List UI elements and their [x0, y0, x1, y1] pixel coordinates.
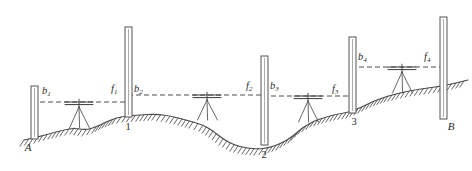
tripod-leg-3 [308, 101, 319, 122]
ground-hatch-tick [136, 115, 140, 121]
ground-hatch-tick [174, 118, 178, 124]
tripod-leg-1 [70, 107, 80, 128]
ground-hatch-tick [157, 115, 161, 121]
ground-hatch-tick [199, 125, 203, 131]
reading-subscript: 2 [249, 85, 253, 93]
tripod-leg-2 [308, 101, 309, 122]
tripod-leg-1 [393, 72, 403, 93]
reading-label-f1: f1 [111, 83, 117, 96]
ground-hatch-tick [148, 114, 152, 120]
ground-hatch-tick [246, 148, 250, 154]
reading-subscript: 4 [427, 56, 431, 64]
line-of-sight-group [32, 67, 443, 102]
level-instrument-group [65, 64, 416, 128]
level-instrument-level-3 [294, 93, 322, 122]
tripod-leg-3 [79, 107, 90, 128]
station-label-group: AB123 [24, 116, 455, 160]
ground-hatch-tick [234, 146, 238, 152]
ground-hatch-tick [20, 140, 24, 146]
ground-hatch-tick [170, 117, 174, 123]
ground-hatch-tick [144, 115, 148, 121]
reading-label-b2: b2 [134, 83, 143, 96]
ground-hatch-tick [242, 148, 246, 154]
ground-hatching [20, 81, 464, 155]
leveling-staff-group [31, 17, 447, 145]
leveling-staff-A [31, 86, 38, 139]
reading-label-b4: b4 [358, 51, 367, 64]
reading-label-b3: b3 [270, 80, 279, 93]
leveling-staff-B [440, 17, 447, 119]
reading-subscript: 1 [47, 90, 51, 98]
ground-hatch-tick [216, 136, 220, 142]
reading-subscript: 3 [334, 88, 339, 96]
ground-hatch-tick [161, 115, 165, 121]
turning-point-label-tp2: 2 [261, 149, 266, 160]
reading-label-f4: f4 [424, 51, 431, 64]
tripod-leg-1 [198, 100, 208, 120]
ground-hatch-tick [226, 143, 230, 149]
reading-subscript: 3 [274, 85, 279, 93]
ground-hatch-tick [189, 122, 193, 128]
leveling-staff-1 [125, 27, 132, 117]
tripod-leg-2 [79, 107, 80, 128]
ground-hatch-tick [78, 129, 82, 135]
ground-hatch-tick [152, 114, 156, 120]
turning-point-label-tp3: 3 [351, 116, 356, 127]
reading-label-b1: b1 [42, 85, 51, 98]
ground-hatch-tick [219, 139, 223, 145]
ground-hatch-tick [238, 147, 242, 153]
endpoint-label-A: A [24, 141, 32, 153]
ground-hatch-tick [250, 149, 254, 155]
ground-hatch-tick [212, 134, 216, 140]
tripod-leg-2 [207, 100, 208, 120]
leveling-diagram-canvas: b1f1b2f2b3f3b4f4 AB123 [0, 0, 472, 171]
leveling-diagram: b1f1b2f2b3f3b4f4 AB123 [0, 0, 472, 171]
level-instrument-level-2 [193, 92, 221, 120]
ground-hatch-tick [230, 145, 234, 151]
turning-point-label-tp1: 1 [125, 121, 130, 132]
ground-hatch-tick [82, 130, 86, 136]
reading-label-f2: f2 [246, 80, 253, 93]
tripod-leg-1 [299, 101, 309, 122]
ground-hatch-tick [182, 120, 186, 126]
reading-subscript: 1 [114, 88, 118, 96]
sight-reading-label-group: b1f1b2f2b3f3b4f4 [42, 51, 431, 98]
ground-hatch-tick [254, 149, 258, 155]
ground-hatch-tick [206, 129, 210, 135]
endpoint-label-B: B [448, 120, 455, 132]
ground-profile-group [20, 80, 468, 155]
ground-hatch-tick [74, 129, 78, 135]
tripod-leg-2 [402, 72, 403, 93]
ground-hatch-tick [202, 127, 206, 133]
ground-hatch-tick [185, 121, 189, 127]
ground-hatch-tick [209, 131, 213, 137]
reading-label-f3: f3 [332, 83, 339, 96]
level-instrument-level-1 [65, 99, 93, 128]
tripod-leg-3 [207, 100, 218, 120]
level-instrument-level-4 [388, 64, 416, 93]
ground-hatch-tick [223, 141, 227, 147]
reading-subscript: 2 [139, 88, 143, 96]
ground-hatch-tick [140, 115, 144, 121]
ground-hatch-tick [166, 116, 170, 122]
ground-hatch-tick [178, 119, 182, 125]
ground-hatch-tick [194, 124, 198, 130]
leveling-staff-2 [261, 56, 268, 145]
tripod-leg-3 [402, 72, 413, 93]
reading-subscript: 4 [363, 56, 367, 64]
leveling-staff-3 [349, 37, 356, 113]
